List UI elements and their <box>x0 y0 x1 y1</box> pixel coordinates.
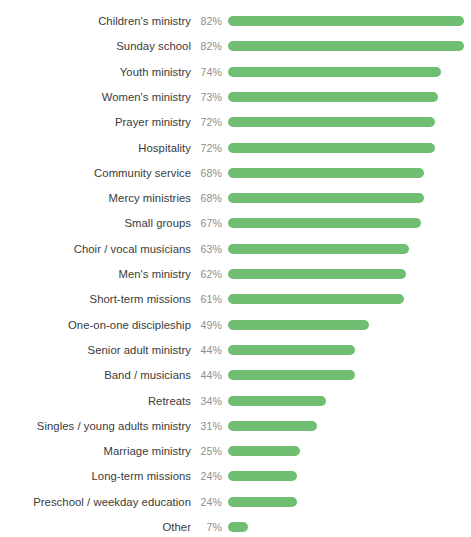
bar <box>228 218 421 228</box>
value-label: 61% <box>150 290 222 308</box>
chart-row: Choir / vocal musicians63% <box>0 240 471 258</box>
value-label: 63% <box>150 240 222 258</box>
bar-track <box>228 269 464 279</box>
bar <box>228 522 248 532</box>
value-label: 72% <box>150 139 222 157</box>
chart-row: Short-term missions61% <box>0 290 471 308</box>
bar <box>228 269 406 279</box>
value-label: 82% <box>150 12 222 30</box>
bar-track <box>228 522 464 532</box>
value-label: 49% <box>150 316 222 334</box>
bar <box>228 67 441 77</box>
value-label: 24% <box>150 467 222 485</box>
bar-track <box>228 421 464 431</box>
bar <box>228 143 435 153</box>
chart-row: Other7% <box>0 518 471 536</box>
chart-row: Retreats34% <box>0 392 471 410</box>
value-label: 25% <box>150 442 222 460</box>
horizontal-bar-chart: Children's ministry82%Sunday school82%Yo… <box>0 0 471 537</box>
chart-row: Singles / young adults ministry31% <box>0 417 471 435</box>
bar-track <box>228 143 464 153</box>
bar <box>228 244 409 254</box>
bar <box>228 16 464 26</box>
value-label: 24% <box>150 493 222 511</box>
value-label: 74% <box>150 63 222 81</box>
bar-track <box>228 497 464 507</box>
chart-row: Mercy ministries68% <box>0 189 471 207</box>
bar <box>228 117 435 127</box>
value-label: 62% <box>150 265 222 283</box>
value-label: 73% <box>150 88 222 106</box>
value-label: 44% <box>150 341 222 359</box>
value-label: 67% <box>150 214 222 232</box>
value-label: 68% <box>150 189 222 207</box>
bar <box>228 41 464 51</box>
bar-track <box>228 41 464 51</box>
bar-track <box>228 446 464 456</box>
bar <box>228 92 438 102</box>
chart-row: Prayer ministry72% <box>0 113 471 131</box>
chart-row: Band / musicians44% <box>0 366 471 384</box>
value-label: 44% <box>150 366 222 384</box>
bar-track <box>228 244 464 254</box>
chart-row: Marriage ministry25% <box>0 442 471 460</box>
bar-track <box>228 471 464 481</box>
chart-row: Long-term missions24% <box>0 467 471 485</box>
bar-track <box>228 320 464 330</box>
chart-row: Men's ministry62% <box>0 265 471 283</box>
bar <box>228 168 424 178</box>
bar-track <box>228 16 464 26</box>
bar-track <box>228 92 464 102</box>
bar-track <box>228 117 464 127</box>
chart-row: One-on-one discipleship49% <box>0 316 471 334</box>
chart-row: Preschool / weekday education24% <box>0 493 471 511</box>
bar-track <box>228 396 464 406</box>
value-label: 7% <box>150 518 222 536</box>
bar <box>228 421 317 431</box>
chart-row: Senior adult ministry44% <box>0 341 471 359</box>
value-label: 34% <box>150 392 222 410</box>
chart-row: Small groups67% <box>0 214 471 232</box>
bar-track <box>228 294 464 304</box>
bar-track <box>228 370 464 380</box>
bar-track <box>228 218 464 228</box>
bar <box>228 370 355 380</box>
chart-row: Community service68% <box>0 164 471 182</box>
chart-row: Hospitality72% <box>0 139 471 157</box>
value-label: 68% <box>150 164 222 182</box>
bar <box>228 193 424 203</box>
value-label: 72% <box>150 113 222 131</box>
bar <box>228 446 300 456</box>
chart-row: Children's ministry82% <box>0 12 471 30</box>
chart-row: Youth ministry74% <box>0 63 471 81</box>
value-label: 31% <box>150 417 222 435</box>
chart-rows: Children's ministry82%Sunday school82%Yo… <box>0 0 471 537</box>
bar-track <box>228 168 464 178</box>
value-label: 82% <box>150 37 222 55</box>
bar <box>228 320 369 330</box>
bar-track <box>228 345 464 355</box>
chart-row: Sunday school82% <box>0 37 471 55</box>
bar <box>228 497 297 507</box>
bar-track <box>228 193 464 203</box>
bar <box>228 294 404 304</box>
bar <box>228 471 297 481</box>
bar <box>228 396 326 406</box>
bar-track <box>228 67 464 77</box>
bar <box>228 345 355 355</box>
chart-row: Women's ministry73% <box>0 88 471 106</box>
